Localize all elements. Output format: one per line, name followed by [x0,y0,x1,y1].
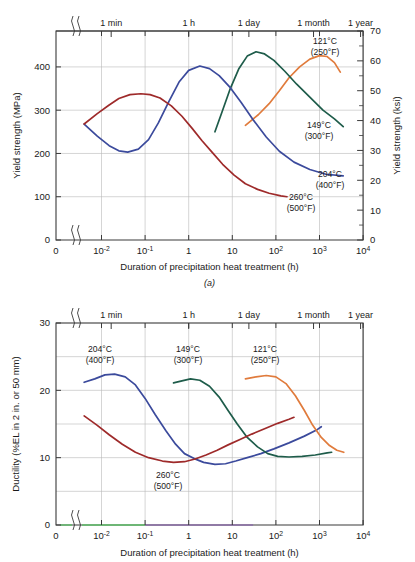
x-tick-label: 103 [312,245,327,257]
x-tick-label: 102 [269,245,284,257]
curve-label: 260°C [156,470,180,480]
y-tick-label: 300 [34,105,50,116]
yield-strength-chart: 010-210-11101021031040100200300400010203… [0,0,415,290]
top-axis-label: 1 min [100,310,122,320]
curve-label: 149°C [307,120,331,130]
y-tick-label: 0 [45,519,50,530]
curve-label: 121°C [313,36,337,46]
x-tick-label: 10 [227,530,238,541]
curve-204 [84,374,321,464]
top-axis-label: 1 year [348,310,373,320]
y-tick-label: 400 [34,61,50,72]
curve-label-sub: (500°F) [287,203,316,213]
curve-label-sub: (400°F) [316,180,345,190]
ductility-chart: 010-210-111010210310401020301 min1 h1 da… [0,290,415,562]
y2-tick-label: 50 [370,85,381,96]
top-axis-label: 1 h [182,18,195,28]
x-tick-label: 102 [269,530,284,542]
x-axis-title: Duration of precipitation heat treatment… [120,547,298,558]
curve-204 [84,66,343,176]
x-tick-label: 104 [356,245,371,257]
curve-label-sub: (250°F) [311,47,340,57]
x-tick-label-origin: 0 [53,530,58,541]
chart-panel-b: 010-210-111010210310401020301 min1 h1 da… [0,290,415,562]
y-tick-label: 0 [45,234,50,245]
plot-area-b: 010-210-111010210310401020301 min1 h1 da… [10,308,373,558]
curve-label: 204°C [318,169,342,179]
x-tick-label: 1 [186,245,191,256]
y-axis-title-secondary: Yield strength (ksi) [391,96,402,174]
curve-label-sub: (400°F) [86,355,115,365]
x-tick-label: 10 [227,245,238,256]
curve-label-sub: (500°F) [154,481,183,491]
curve-label: 121°C [253,344,277,354]
chart-panel-a: 010-210-11101021031040100200300400010203… [0,0,415,290]
y-axis-title: Ductility (%EL in 2 in. or 50 mm) [10,356,21,491]
x-tick-label-origin: 0 [53,245,58,256]
x-tick-label: 10-2 [93,245,110,257]
curve-label-sub: (250°F) [251,355,280,365]
y2-tick-label: 60 [370,55,381,66]
curve-label-sub: (300°F) [305,131,334,141]
y-axis-title: Yield strength (MPa) [11,92,22,178]
curve-label-sub: (300°F) [174,355,203,365]
y-tick-label: 100 [34,191,50,202]
curve-label: 204°C [88,344,112,354]
x-tick-label: 103 [312,530,327,542]
y2-tick-label: 20 [370,175,381,186]
y-tick-label: 200 [34,148,50,159]
x-tick-label: 1 [186,530,191,541]
panel-label: (a) [204,278,215,288]
x-tick-label: 104 [356,530,371,542]
y2-tick-label: 40 [370,115,381,126]
x-axis-title: Duration of precipitation heat treatment… [120,261,298,272]
top-axis-label: 1 month [297,310,330,320]
x-tick-label: 10-2 [93,530,110,542]
top-axis-label: 1 h [182,310,195,320]
x-tick-label: 10-1 [137,245,154,257]
top-axis-label: 1 year [348,18,373,28]
top-axis-label: 1 day [238,18,261,28]
y2-tick-label: 10 [370,205,381,216]
y2-tick-label: 0 [370,234,375,245]
curve-label: 260°C [289,192,313,202]
y-tick-label: 20 [39,385,50,396]
curve-121 [245,56,340,126]
y2-tick-label: 30 [370,145,381,156]
curve-label: 149°C [176,344,200,354]
axis-break-symbol [72,16,81,36]
top-axis-label: 1 min [100,18,122,28]
top-axis-label: 1 day [238,310,261,320]
axis-break-symbol [72,308,81,328]
y-tick-label: 10 [39,452,50,463]
axis-break-symbol [72,510,81,530]
y-tick-label: 30 [39,317,50,328]
x-tick-label: 10-1 [137,530,154,542]
curve-260 [84,94,287,197]
axis-break-symbol [72,225,81,245]
plot-area-a: 010-210-11101021031040100200300400010203… [11,16,402,288]
top-axis-label: 1 month [297,18,330,28]
